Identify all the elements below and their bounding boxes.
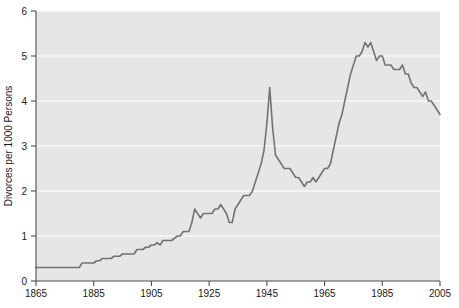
x-tick-label-1965: 1965 — [313, 288, 336, 299]
chart-canvas: 18651885190519251945196519852005 0123456… — [0, 0, 459, 308]
x-tick-label-1985: 1985 — [371, 288, 394, 299]
x-tick-label-1865: 1865 — [25, 288, 48, 299]
x-tick-label-1905: 1905 — [140, 288, 163, 299]
x-tick-label-1885: 1885 — [83, 288, 106, 299]
y-axis-title: Divorces per 1000 Persons — [3, 86, 14, 207]
y-tick-label-3: 3 — [21, 141, 27, 152]
y-tick-label-2: 2 — [21, 186, 27, 197]
x-tick-label-2005: 2005 — [429, 288, 452, 299]
divorce-rate-chart: 18651885190519251945196519852005 0123456… — [0, 0, 459, 308]
y-tick-label-6: 6 — [21, 6, 27, 17]
x-tick-label-1945: 1945 — [256, 288, 279, 299]
y-tick-label-1: 1 — [21, 231, 27, 242]
x-tick-label-1925: 1925 — [198, 288, 221, 299]
y-tick-label-4: 4 — [21, 96, 27, 107]
y-tick-label-0: 0 — [21, 276, 27, 287]
y-tick-label-5: 5 — [21, 51, 27, 62]
